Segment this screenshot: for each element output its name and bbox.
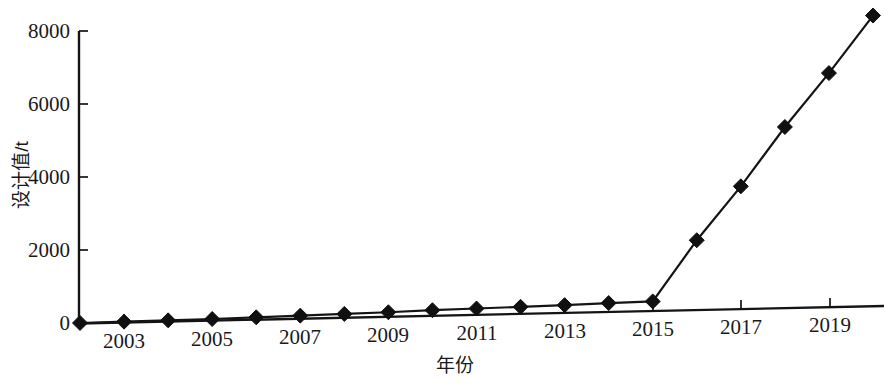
data-point-marker [513,299,528,314]
x-tick-label: 2019 [809,313,851,337]
data-point-marker [205,312,220,327]
y-tick-label: 4000 [28,165,70,189]
y-tick-label: 2000 [28,238,70,262]
x-tick-label: 2009 [367,323,409,347]
x-tick-label: 2007 [279,325,321,349]
data-point-marker [117,314,132,329]
y-tick-label: 8000 [28,19,70,43]
y-axis-ticks [79,31,88,250]
line-chart-plot: 8000 6000 4000 2000 0 [0,0,885,384]
x-tick-label: 2015 [632,317,674,341]
series-line [80,16,873,323]
y-tick-label: 6000 [28,92,70,116]
data-point-marker [645,294,660,309]
data-point-marker [601,296,616,311]
data-series [73,8,881,330]
data-point-marker [293,308,308,323]
data-point-marker [73,315,88,330]
data-point-marker [337,306,352,321]
x-tick-label: 2011 [456,321,497,345]
x-axis-title: 年份 [436,355,474,376]
y-tick-label: 0 [60,311,71,335]
y-axis-tick-labels: 8000 6000 4000 2000 0 [28,19,70,335]
x-tick-label: 2003 [103,329,145,353]
data-point-marker [557,298,572,313]
x-tick-label: 2005 [191,327,233,351]
data-point-marker [161,313,176,328]
x-tick-label: 2017 [720,315,762,339]
y-axis-title: 设计值/t [11,141,32,209]
chart-container: 8000 6000 4000 2000 0 [0,0,885,384]
data-point-marker [249,310,264,325]
x-tick-label: 2013 [544,319,586,343]
